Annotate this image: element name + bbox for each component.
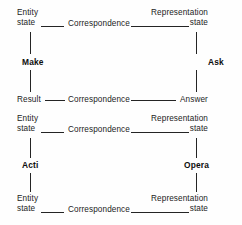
edge-line-make-lower <box>30 70 31 92</box>
node-entity-state-3-line1: Entity <box>17 194 57 204</box>
edge-line-entity2-to-correspondence3 <box>41 132 64 133</box>
edge-line-correspondence4-to-representation3 <box>131 212 189 213</box>
node-representation-state-3-line2: state <box>143 204 208 214</box>
node-representation-state-3-line1: Representation <box>143 194 208 204</box>
node-representation-state-2-line2: state <box>143 124 208 134</box>
edge-line-operation-lower <box>196 173 197 192</box>
node-representation-state-1-line1: Representation <box>143 8 208 18</box>
edge-label-correspondence-3: Correspondence <box>68 125 130 134</box>
node-answer-line1: Answer <box>180 95 220 105</box>
node-entity-state-3-line2: state <box>17 204 57 214</box>
node-entity-state-2-line1: Entity <box>17 114 57 124</box>
verb-operation: Opera <box>184 160 209 170</box>
edge-line-entity3-to-correspondence4 <box>41 212 64 213</box>
edge-label-correspondence-1: Correspondence <box>68 19 130 28</box>
verb-make: Make <box>22 57 44 67</box>
edge-label-correspondence-2: Correspondence <box>68 95 130 104</box>
edge-line-action-upper <box>30 138 31 158</box>
node-representation-state-1-line2: state <box>143 18 208 28</box>
verb-ask: Ask <box>208 57 224 67</box>
edge-line-ask-lower <box>196 70 197 92</box>
edge-line-action-lower <box>30 173 31 192</box>
edge-line-result-to-correspondence2 <box>45 100 65 101</box>
node-entity-state-1-line1: Entity <box>17 8 57 18</box>
edge-label-correspondence-4: Correspondence <box>68 205 130 214</box>
edge-line-correspondence2-to-answer <box>131 100 176 101</box>
edge-line-correspondence1-to-representation1 <box>131 26 189 27</box>
node-entity-state-1-line2: state <box>17 18 57 28</box>
edge-line-ask-upper <box>196 32 197 54</box>
node-representation-state-2-line1: Representation <box>143 114 208 124</box>
node-answer: Answer <box>180 95 220 105</box>
node-entity-state-2-line2: state <box>17 124 57 134</box>
edge-line-entity1-to-correspondence1 <box>41 26 64 27</box>
verb-action: Acti <box>22 160 38 170</box>
correspondence-diagram: Entity state Correspondence Representati… <box>0 0 242 225</box>
edge-line-operation-upper <box>196 138 197 158</box>
edge-line-correspondence3-to-representation2 <box>131 132 189 133</box>
edge-line-make-upper <box>30 32 31 54</box>
